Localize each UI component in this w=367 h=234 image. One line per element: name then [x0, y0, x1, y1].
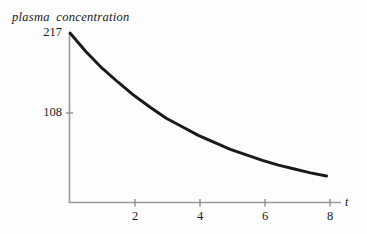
- y-tick-label: 108: [28, 106, 62, 119]
- x-axis-title: t: [345, 196, 349, 208]
- x-tick-label: 2: [120, 210, 150, 223]
- decay-curve: [70, 33, 327, 176]
- x-tick-label: 4: [185, 210, 215, 223]
- x-tick-label: 8: [315, 210, 345, 223]
- x-tick-label: 6: [250, 210, 280, 223]
- y-tick-label: 217: [28, 26, 62, 39]
- chart-figure: plasma concentration t 217108 2468: [0, 0, 367, 234]
- y-axis-title: plasma concentration: [12, 11, 130, 24]
